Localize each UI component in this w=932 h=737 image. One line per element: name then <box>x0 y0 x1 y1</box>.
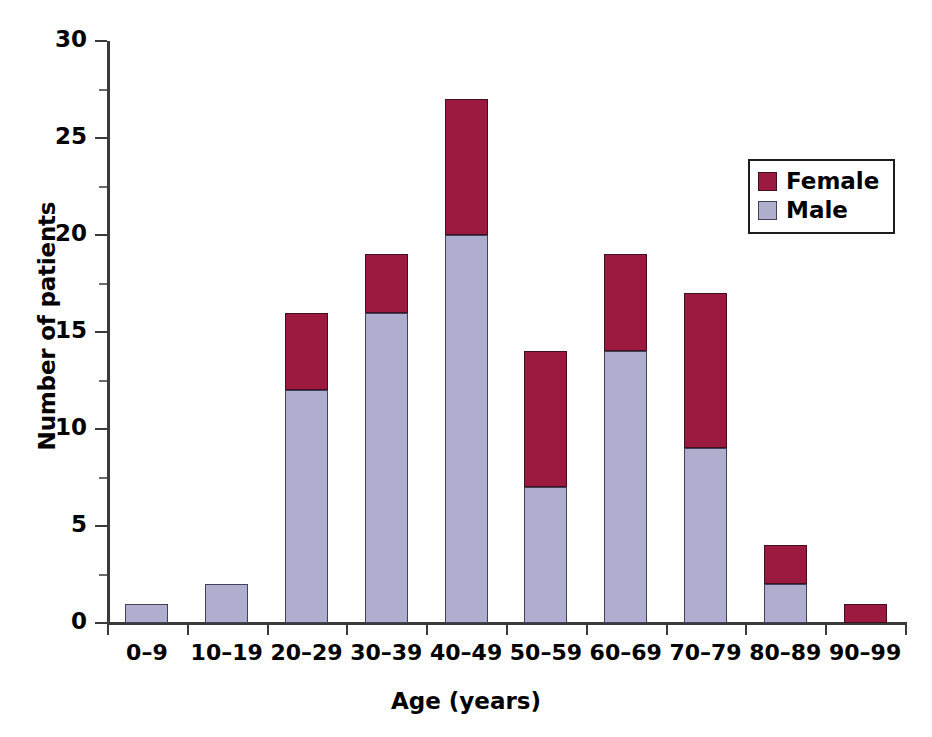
y-tick-major <box>95 622 107 624</box>
bar-segment-female[interactable] <box>365 254 408 312</box>
bar-segment-male[interactable] <box>684 448 727 623</box>
bar-segment-female[interactable] <box>524 351 567 487</box>
y-tick-label: 0 <box>0 610 87 633</box>
bar-segment-male[interactable] <box>524 487 567 623</box>
x-tick <box>745 622 747 635</box>
bar-segment-female[interactable] <box>844 604 887 623</box>
x-tick <box>825 622 827 635</box>
bar-segment-male[interactable] <box>285 390 328 623</box>
bar-segment-male[interactable] <box>125 604 168 623</box>
bar-segment-female[interactable] <box>285 313 328 391</box>
bar-segment-male[interactable] <box>365 313 408 623</box>
bar-segment-male[interactable] <box>764 584 807 623</box>
y-tick-label: 10 <box>0 416 87 439</box>
x-tick <box>905 622 907 635</box>
bar-group[interactable] <box>524 41 567 623</box>
bar-group[interactable] <box>445 41 488 623</box>
legend-label-female: Female <box>786 170 879 193</box>
x-tick-label: 90–99 <box>825 640 905 665</box>
x-tick-label: 20–29 <box>267 640 347 665</box>
bar-segment-male[interactable] <box>445 235 488 623</box>
y-tick-minor <box>99 574 107 576</box>
x-tick-label: 0–9 <box>107 640 187 665</box>
y-tick-major <box>95 234 107 236</box>
y-tick-label: 15 <box>0 319 87 342</box>
x-tick <box>426 622 428 635</box>
x-tick <box>346 622 348 635</box>
x-tick <box>666 622 668 635</box>
y-tick-major <box>95 428 107 430</box>
y-tick-label: 20 <box>0 222 87 245</box>
y-tick-label: 25 <box>0 125 87 148</box>
x-axis-title: Age (years) <box>0 688 932 714</box>
y-tick-minor <box>99 186 107 188</box>
bar-segment-male[interactable] <box>604 351 647 623</box>
y-tick-minor <box>99 283 107 285</box>
bar-group[interactable] <box>125 41 168 623</box>
bar-segment-female[interactable] <box>764 545 807 584</box>
x-tick <box>506 622 508 635</box>
bar-segment-female[interactable] <box>445 99 488 235</box>
bar-group[interactable] <box>844 41 887 623</box>
plot-area <box>107 41 905 623</box>
x-tick-label: 80–89 <box>745 640 825 665</box>
bar-segment-female[interactable] <box>684 293 727 448</box>
y-tick-label: 5 <box>0 513 87 536</box>
x-tick <box>187 622 189 635</box>
y-tick-label: 30 <box>0 28 87 51</box>
bar-group[interactable] <box>285 41 328 623</box>
x-tick-label: 60–69 <box>586 640 666 665</box>
y-tick-major <box>95 40 107 42</box>
y-tick-major <box>95 331 107 333</box>
bar-group[interactable] <box>764 41 807 623</box>
legend-item-female[interactable]: Female <box>758 167 879 196</box>
bar-group[interactable] <box>205 41 248 623</box>
y-tick-minor <box>99 477 107 479</box>
x-tick <box>586 622 588 635</box>
bar-group[interactable] <box>684 41 727 623</box>
legend-item-male[interactable]: Male <box>758 196 879 225</box>
x-tick-label: 50–59 <box>506 640 586 665</box>
legend: Female Male <box>748 159 895 234</box>
y-tick-major <box>95 525 107 527</box>
bar-segment-female[interactable] <box>604 254 647 351</box>
y-tick-minor <box>99 380 107 382</box>
bar-group[interactable] <box>604 41 647 623</box>
x-tick-label: 10–19 <box>187 640 267 665</box>
bar-group[interactable] <box>365 41 408 623</box>
chart-container: Number of patients 051015202530 0–910–19… <box>0 0 932 737</box>
y-tick-major <box>95 137 107 139</box>
x-tick-label: 70–79 <box>666 640 746 665</box>
x-tick-label: 40–49 <box>426 640 506 665</box>
x-tick-label: 30–39 <box>346 640 426 665</box>
x-tick <box>107 622 109 635</box>
x-tick <box>267 622 269 635</box>
legend-label-male: Male <box>786 199 848 222</box>
bar-segment-male[interactable] <box>205 584 248 623</box>
y-tick-minor <box>99 89 107 91</box>
legend-swatch-female-icon <box>758 172 777 191</box>
legend-swatch-male-icon <box>758 201 777 220</box>
